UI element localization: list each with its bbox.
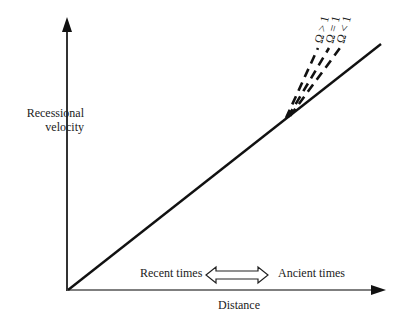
dashed-line-omega-eq-1: [288, 48, 329, 117]
linear-hubble-line: [68, 44, 381, 290]
y-axis-label: Recessional velocity: [4, 106, 84, 134]
diagram-graphics: Ω > 1 Ω = 1 Ω < 1: [0, 0, 406, 326]
ancient-times-label: Ancient times: [278, 266, 345, 280]
y-axis-label-line1: Recessional: [4, 106, 84, 120]
hubble-diagram: Ω > 1 Ω = 1 Ω < 1 Recessional velocity R…: [0, 0, 406, 326]
y-axis-label-line2: velocity: [4, 120, 84, 134]
y-axis-arrow-icon: [62, 17, 72, 32]
x-axis-arrow-icon: [371, 285, 386, 295]
recent-times-label: Recent times: [140, 266, 202, 280]
x-axis-label: Distance: [218, 298, 260, 312]
double-arrow-icon: [206, 267, 268, 283]
